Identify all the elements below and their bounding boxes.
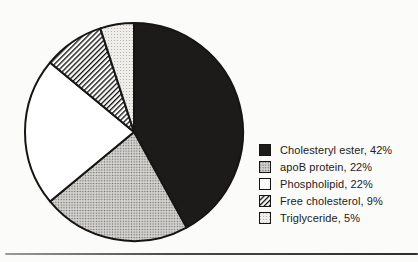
legend-item-triglyceride: Triglyceride, 5% [259, 212, 392, 224]
legend-swatch-diagonal-hatch-icon [259, 195, 271, 207]
bottom-rule [5, 253, 418, 255]
legend-label: apoB protein, 22% [280, 161, 372, 173]
legend-item-phospholipid: Phospholipid, 22% [259, 178, 392, 190]
legend-item-free-cholesterol: Free cholesterol, 9% [259, 195, 392, 207]
legend-swatch-solid-black-icon [259, 144, 271, 156]
legend-label: Cholesteryl ester, 42% [280, 144, 392, 156]
legend-label: Triglyceride, 5% [280, 212, 360, 224]
legend-swatch-halftone-light-icon [259, 212, 271, 224]
pie-chart [14, 12, 254, 252]
legend-label: Phospholipid, 22% [280, 178, 373, 190]
legend-item-apob-protein: apoB protein, 22% [259, 161, 392, 173]
legend-swatch-halftone-medium-icon [259, 161, 271, 173]
legend: Cholesteryl ester, 42% apoB protein, 22%… [259, 144, 392, 224]
legend-label: Free cholesterol, 9% [280, 195, 383, 207]
pie-chart-figure: Cholesteryl ester, 42% apoB protein, 22%… [0, 0, 418, 262]
legend-swatch-white-icon [259, 178, 271, 190]
legend-item-cholesteryl-ester: Cholesteryl ester, 42% [259, 144, 392, 156]
